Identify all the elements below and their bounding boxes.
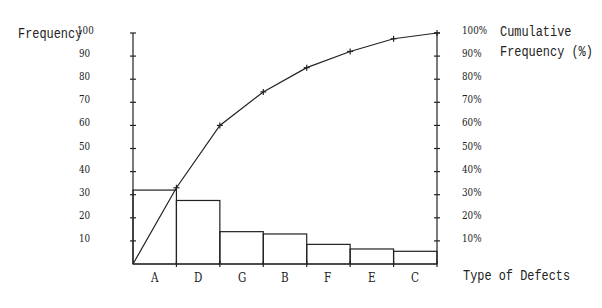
y-tick-label: 80 xyxy=(79,70,90,83)
y-tick-label: 20 xyxy=(79,209,90,222)
y2-tick-label: 20% xyxy=(462,209,482,222)
y-tick-label: 40 xyxy=(79,163,90,176)
y-tick-label: 50 xyxy=(79,140,90,153)
bar-G xyxy=(220,232,263,264)
bar-E xyxy=(350,249,393,264)
category-label: F xyxy=(324,270,331,285)
right-axis-title-line1: Cumulative xyxy=(500,24,571,40)
category-label: B xyxy=(281,270,289,285)
y2-tick-label: 70% xyxy=(462,93,482,106)
y-tick-label: 60 xyxy=(79,116,90,129)
y2-tick-label: 60% xyxy=(462,116,482,129)
y-tick-label: 10 xyxy=(79,232,90,245)
y2-tick-label: 30% xyxy=(462,186,482,199)
category-label: E xyxy=(368,270,376,285)
category-label: D xyxy=(194,270,202,285)
left-axis-title: Frequency xyxy=(18,26,82,42)
category-label: C xyxy=(411,270,419,285)
y2-tick-label: 40% xyxy=(462,163,482,176)
bar-F xyxy=(307,244,350,264)
right-axis-title-line2: Frequency (%) xyxy=(500,44,593,60)
y2-tick-label: 50% xyxy=(462,140,482,153)
y2-tick-label: 100% xyxy=(462,24,487,37)
y2-tick-label: 90% xyxy=(462,47,482,60)
cumulative-line xyxy=(133,33,437,264)
bar-D xyxy=(176,200,219,264)
category-label: G xyxy=(238,270,246,285)
y-tick-label: 30 xyxy=(79,186,90,199)
y-tick-label: 90 xyxy=(79,47,90,60)
y-tick-label: 70 xyxy=(79,93,90,106)
category-label: A xyxy=(151,270,159,285)
y-tick-label: 100 xyxy=(77,24,94,37)
y2-tick-label: 80% xyxy=(462,70,482,83)
x-axis-title: Type of Defects xyxy=(463,268,570,284)
y2-tick-label: 10% xyxy=(462,232,482,245)
bar-B xyxy=(263,234,306,264)
bar-C xyxy=(394,251,437,264)
